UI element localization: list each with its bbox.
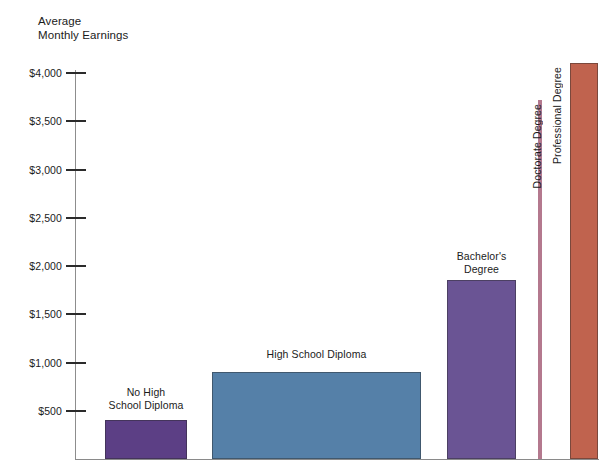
y-axis-tick [66, 217, 86, 219]
bar-label: No HighSchool Diploma [105, 386, 187, 412]
bar-no-high-school-diploma [105, 420, 187, 459]
bar-label: Bachelor'sDegree [432, 250, 531, 276]
y-axis-tick [66, 362, 86, 364]
y-axis-tick-label: $4,000 [4, 67, 62, 79]
y-axis-tick [66, 169, 86, 171]
y-axis-tick [66, 120, 86, 122]
bar-chart: Average Monthly Earnings $4,000$3,500$3,… [0, 0, 599, 472]
y-axis-tick-label: $3,500 [4, 115, 62, 127]
y-axis-tick-label: $1,500 [4, 308, 62, 320]
bar-label-line1: High School Diploma [267, 348, 367, 360]
bar-label: Doctorate Degree [531, 104, 544, 188]
bar-label-line2: Degree [464, 263, 499, 275]
y-axis-tick [66, 410, 86, 412]
x-axis-line [75, 459, 599, 460]
bar-high-school-diploma [212, 372, 421, 459]
bar-label-line2: School Diploma [109, 399, 184, 411]
bar-label: Professional Degree [551, 67, 564, 164]
y-axis-tick-label: $3,000 [4, 164, 62, 176]
y-axis-tick [66, 72, 86, 74]
bar-label-line1: No High [127, 386, 166, 398]
chart-axis-title-line2: Monthly Earnings [38, 28, 128, 42]
chart-axis-title: Average Monthly Earnings [38, 14, 128, 42]
bar-professional-degree [570, 63, 598, 459]
y-axis-tick-label: $500 [4, 405, 62, 417]
bar-bachelor-s-degree [447, 280, 516, 459]
bar-label-line1: Bachelor's [457, 250, 507, 262]
y-axis-tick-label: $1,000 [4, 357, 62, 369]
y-axis-tick [66, 313, 86, 315]
chart-axis-title-line1: Average [38, 15, 81, 27]
y-axis-tick [66, 265, 86, 267]
bar-label: High School Diploma [212, 348, 421, 361]
y-axis-tick-label: $2,500 [4, 212, 62, 224]
y-axis-tick-label: $2,000 [4, 260, 62, 272]
